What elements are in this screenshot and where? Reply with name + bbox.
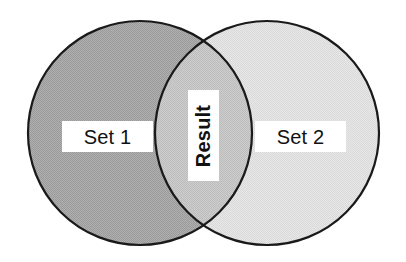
set2-label-text: Set 2	[277, 127, 325, 147]
set1-label-text: Set 1	[84, 127, 132, 147]
venn-diagram: Set 1 Result Set 2	[0, 0, 406, 262]
set2-label-box: Set 2	[255, 121, 346, 152]
set1-label-box: Set 1	[62, 121, 153, 152]
result-label-text: Result	[194, 104, 214, 166]
result-label-box: Result	[188, 90, 219, 181]
